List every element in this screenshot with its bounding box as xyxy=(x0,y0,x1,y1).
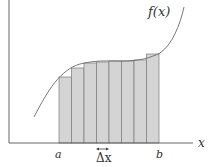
riemann-sum-diagram: f(x) x a b Δx xyxy=(0,0,213,167)
riemann-rectangles xyxy=(59,54,159,143)
delta-x-label: Δx xyxy=(96,151,112,165)
riemann-rectangle xyxy=(84,63,97,143)
riemann-rectangle xyxy=(122,61,135,143)
riemann-rectangle xyxy=(59,77,72,143)
riemann-rectangle xyxy=(97,62,110,143)
b-label: b xyxy=(156,148,163,161)
riemann-rectangle xyxy=(109,61,122,143)
riemann-rectangle xyxy=(147,54,160,143)
a-label: a xyxy=(55,148,62,161)
diagram-svg: f(x) x a b Δx xyxy=(0,0,213,167)
riemann-rectangle xyxy=(134,60,147,143)
curve-label: f(x) xyxy=(147,4,170,19)
x-axis-label: x xyxy=(198,136,205,150)
riemann-rectangle xyxy=(72,68,85,143)
